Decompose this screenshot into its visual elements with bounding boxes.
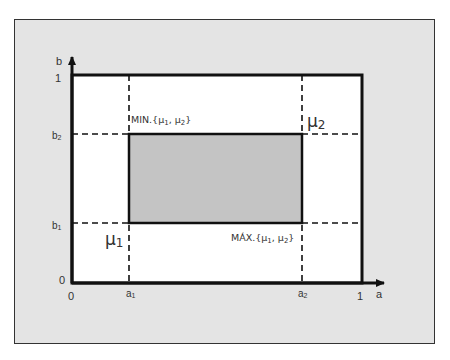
diagram-canvas: b a 1 b2 b1 0 0 a1 a2 1 μ1 μ2 MIN.{μ1, μ… [0,0,450,360]
y-tick-1: 1 [55,72,61,84]
x-tick-a1: a1 [126,288,136,299]
y-axis-label: b [56,55,62,67]
y-tick-b1: b1 [52,220,62,231]
x-axis-label: a [376,288,383,300]
y-tick-0: 0 [59,274,65,286]
shaded-rectangle [129,134,302,223]
y-tick-b2: b2 [52,130,62,141]
x-tick-1: 1 [357,290,363,302]
x-tick-a2: a2 [298,288,308,299]
x-tick-0: 0 [68,290,74,302]
